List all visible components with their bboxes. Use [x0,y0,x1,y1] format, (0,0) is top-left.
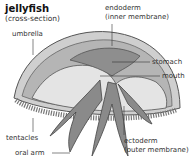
label-endoderm-note: (inner membrane) [105,13,169,21]
jellyfish-illustration [0,0,193,168]
label-endoderm: endoderm [105,4,141,12]
label-stomach: stomach [152,58,182,66]
label-tentacles: tentacles [6,134,38,142]
label-ectoderm: ectoderm [124,137,158,145]
label-ectoderm-note: (outer membrane) [124,146,189,154]
label-mouth: mouth [162,72,185,80]
label-oral-arm: oral arm [15,149,44,157]
label-umbrella: umbrella [12,30,43,38]
